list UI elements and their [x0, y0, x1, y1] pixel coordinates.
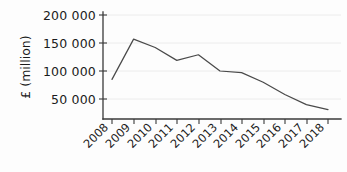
y-tick-label: 200 000 [43, 8, 96, 23]
y-tick-label: 150 000 [43, 36, 96, 51]
chart-canvas: 200 000 150 000 100 000 50 000 £ (millio… [0, 0, 347, 172]
gridlines [103, 15, 341, 99]
y-axis-title: £ (million) [18, 35, 33, 98]
y-tick-label: 50 000 [51, 92, 96, 107]
line-chart: 200 000 150 000 100 000 50 000 £ (millio… [0, 0, 347, 172]
x-tick-labels: 2008 2009 2010 2011 2012 2013 2014 2015 … [81, 120, 328, 151]
y-tick-labels: 200 000 150 000 100 000 50 000 [43, 8, 96, 107]
y-tick-label: 100 000 [43, 64, 96, 79]
x-tick-label: 2018 [297, 120, 328, 151]
